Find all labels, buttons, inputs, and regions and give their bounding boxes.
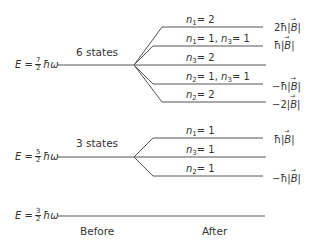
state-label-n2-1: n2= 1: [186, 164, 215, 176]
val: = 1: [232, 71, 250, 82]
energy-prefix: E =: [15, 151, 33, 162]
state-label-n3-2: n3= 2: [186, 53, 215, 65]
fraction: 32: [35, 208, 41, 223]
energy-suffix: ħω: [43, 59, 58, 70]
coeff: ħ: [274, 40, 281, 51]
coeff: −2: [272, 99, 287, 110]
fraction-den: 2: [36, 216, 40, 223]
before-label: Before: [80, 226, 114, 237]
states-count-6: 6 states: [76, 47, 118, 58]
state-label-n1-1: n1= 1: [186, 126, 215, 138]
energy-label-5-2: E = 52 ħω: [15, 149, 59, 164]
val: = 1: [197, 144, 215, 155]
shift-label-hB: ħ|B|: [274, 41, 295, 51]
b-vector: B: [284, 134, 291, 145]
after-label: After: [202, 226, 227, 237]
energy-label-7-2: E = 72 ħω: [15, 57, 59, 72]
state-label-n2-2: n2= 2: [186, 90, 215, 102]
val: = 2: [197, 14, 215, 25]
shift-label-neg-hB-lower: −ħ|B|: [272, 174, 301, 184]
energy-label-3-2: E = 32 ħω: [15, 208, 59, 223]
energy-suffix: ħω: [43, 210, 58, 221]
coeff: 2ħ: [274, 22, 287, 33]
states-count-3: 3 states: [76, 138, 118, 149]
b-vector: B: [291, 173, 298, 184]
b-vector: B: [291, 81, 298, 92]
val: = 1,: [197, 71, 221, 82]
val: = 1: [232, 33, 250, 44]
energy-prefix: E =: [15, 210, 33, 221]
state-label-n2-1-n3-1: n2= 1, n3= 1: [186, 72, 250, 84]
energy-suffix: ħω: [43, 151, 58, 162]
fraction: 72: [35, 57, 41, 72]
coeff: −ħ: [272, 173, 287, 184]
val: = 2: [197, 52, 215, 63]
state-label-n1-2: n1= 2: [186, 15, 215, 27]
fraction-den: 2: [36, 65, 40, 72]
shift-label-hB-lower: ħ|B|: [274, 135, 295, 145]
state-label-n3-1: n3= 1: [186, 145, 215, 157]
energy-prefix: E =: [15, 59, 33, 70]
fraction-den: 2: [36, 157, 40, 164]
state-label-n1-1-n3-1: n1= 1, n3= 1: [186, 34, 250, 46]
shift-label-neg-hB: −ħ|B|: [272, 82, 301, 92]
shift-label-2hB: 2ħ|B|: [274, 23, 301, 33]
b-vector: B: [284, 40, 291, 51]
coeff: ħ: [274, 134, 281, 145]
b-vector: B: [290, 99, 297, 110]
shift-label-neg-2B: −2|B|: [272, 100, 300, 110]
val: = 1: [197, 163, 215, 174]
b-vector: B: [291, 22, 298, 33]
coeff: −ħ: [272, 81, 287, 92]
val: = 1,: [197, 33, 221, 44]
val: = 1: [197, 125, 215, 136]
fraction: 52: [35, 149, 41, 164]
val: = 2: [197, 89, 215, 100]
